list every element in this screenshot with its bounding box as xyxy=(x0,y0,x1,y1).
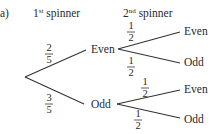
branch-even-odd xyxy=(118,49,180,63)
prob-root-odd: 3 5 xyxy=(45,92,53,115)
prob-denominator: 2 xyxy=(128,67,133,78)
prob-numerator: 1 xyxy=(128,20,133,31)
first-spinner-header: 1st spinner xyxy=(33,7,80,20)
prob-denominator: 2 xyxy=(128,32,133,43)
leaf-even-even: Even xyxy=(184,25,208,37)
leaf-odd-odd: Odd xyxy=(184,113,204,125)
prob-denominator: 2 xyxy=(135,120,140,131)
prob-numerator: 2 xyxy=(46,42,51,53)
prob-numerator: 1 xyxy=(142,76,147,87)
part-label: a) xyxy=(0,7,9,20)
node-odd: Odd xyxy=(91,98,111,110)
leaf-even-odd: Odd xyxy=(184,56,204,68)
prob-denominator: 2 xyxy=(142,88,147,99)
branch-root-even xyxy=(25,50,86,77)
tree-diagram: a) 1st spinner 2nd spinner 2 5 3 5 Even … xyxy=(0,0,212,134)
leaf-odd-even: Even xyxy=(184,83,208,95)
prob-numerator: 3 xyxy=(46,92,51,103)
second-spinner-header: 2nd spinner xyxy=(123,7,173,20)
prob-root-even: 2 5 xyxy=(45,42,53,65)
prob-denominator: 5 xyxy=(46,54,51,65)
prob-odd-even: 1 2 xyxy=(141,76,149,99)
prob-odd-odd: 1 2 xyxy=(134,108,142,131)
branch-odd-even xyxy=(117,90,180,104)
node-even: Even xyxy=(91,43,115,55)
branch-even-even xyxy=(118,32,180,49)
prob-even-even: 1 2 xyxy=(127,20,135,43)
prob-numerator: 1 xyxy=(128,55,133,66)
branch-root-odd xyxy=(25,77,84,104)
prob-even-odd: 1 2 xyxy=(127,55,135,78)
branch-odd-odd xyxy=(117,104,180,118)
prob-denominator: 5 xyxy=(46,104,51,115)
prob-numerator: 1 xyxy=(135,108,140,119)
